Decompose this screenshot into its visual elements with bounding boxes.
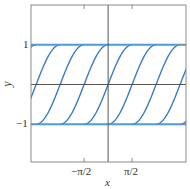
y-tick-label-neg1: −1 — [16, 118, 28, 129]
y-axis-label: y — [1, 81, 13, 86]
axes — [31, 5, 186, 162]
plot-area — [0, 0, 190, 189]
x-axis-label: x — [105, 177, 110, 188]
y-tick-label-1: 1 — [23, 39, 29, 50]
x-tick-label-neg-pi-half: −π/2 — [71, 166, 91, 177]
x-tick-label-pi-half: π/2 — [124, 166, 138, 177]
